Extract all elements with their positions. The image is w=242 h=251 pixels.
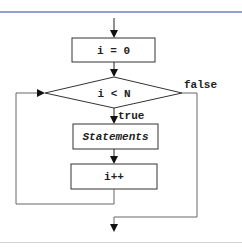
node-body: Statements [73, 124, 158, 149]
node-increment: i++ [71, 164, 157, 189]
edge-true-label: true [118, 110, 145, 122]
node-init: i = 0 [72, 38, 155, 62]
flowchart: i = 0 i < N true Statements i++ false [0, 0, 242, 251]
node-body-label: Statements [82, 131, 148, 143]
edge-false-label: false [184, 79, 217, 91]
node-init-label: i = 0 [97, 45, 130, 57]
bottom-divider [0, 242, 242, 243]
node-condition: i < N [45, 77, 182, 108]
node-condition-label: i < N [97, 88, 130, 100]
node-increment-label: i++ [104, 171, 124, 183]
